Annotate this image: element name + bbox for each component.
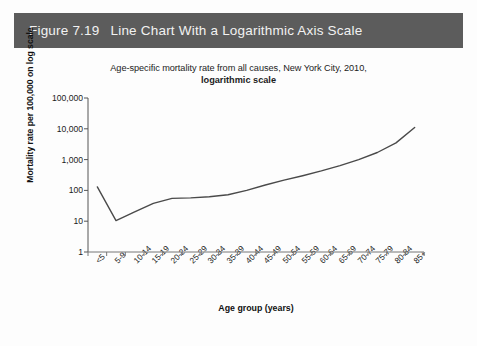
- axis-lines: [88, 98, 424, 252]
- mortality-rate-line: [97, 128, 414, 221]
- x-axis-ticks: [88, 252, 424, 256]
- y-axis-ticks: [84, 98, 88, 252]
- chart-canvas: [0, 0, 477, 346]
- plot-area: Mortality rate per 100,000 on log scale …: [0, 0, 477, 346]
- x-axis-title: Age group (years): [88, 303, 424, 313]
- figure-container: Figure 7.19Line Chart With a Logarithmic…: [0, 0, 477, 346]
